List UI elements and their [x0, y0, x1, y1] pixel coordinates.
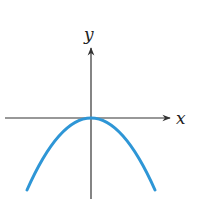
parabola-diagram: x y [0, 0, 200, 199]
y-axis-label: y [83, 24, 94, 44]
x-axis-label: x [176, 108, 186, 128]
